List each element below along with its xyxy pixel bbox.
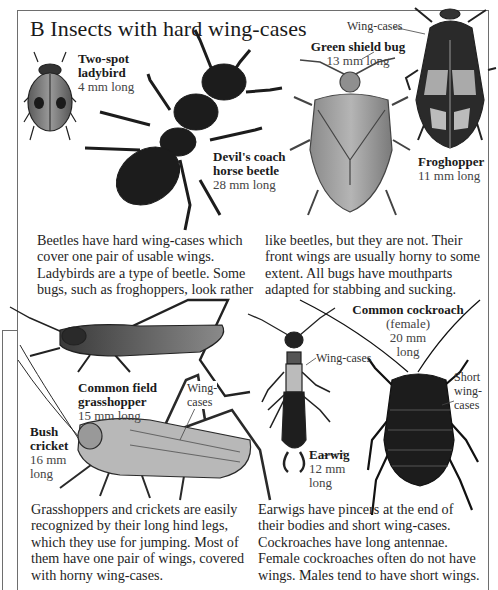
ladybird-illustration — [24, 52, 76, 140]
insect-name: Common cockroach — [348, 303, 468, 317]
section-title: B Insects with hard wing-cases — [30, 16, 307, 42]
label-common-field-grasshopper: Common field grasshopper 15 mm long — [78, 381, 157, 423]
insect-size: 20 mm — [348, 331, 468, 345]
insect-name: ladybird — [78, 66, 134, 80]
insect-name: Bush — [30, 425, 68, 439]
insect-size: 28 mm long — [213, 178, 286, 192]
text-line: recognized by their long hind legs, — [31, 517, 244, 533]
text-line: extent. All bugs have mouthparts — [265, 265, 480, 281]
insect-name: Froghopper — [418, 155, 484, 169]
text-line: cover one pair of usable wings. — [37, 248, 253, 264]
label-common-cockroach: Common cockroach (female) 20 mm long — [348, 303, 468, 359]
label-green-shield-bug: Green shield bug 13 mm long — [306, 40, 410, 68]
label-froghopper: Froghopper 11 mm long — [418, 155, 484, 183]
insect-sex: (female) — [348, 317, 468, 331]
text-line: wings. Males tend to have short wings. — [258, 567, 479, 583]
callout-line: cases — [454, 398, 482, 412]
label-bush-cricket: Bush cricket 16 mm long — [30, 425, 68, 481]
text-line: their bodies and short wing-cases. — [258, 517, 479, 533]
text-line: Grasshoppers and crickets are easily — [31, 501, 244, 517]
text-line: them have one pair of wings, covered — [31, 550, 244, 566]
insect-size: 12 mm — [309, 462, 349, 476]
insect-size: 11 mm long — [418, 169, 484, 183]
insect-name: Common field — [78, 381, 157, 395]
insect-size: 13 mm long — [306, 54, 410, 68]
text-line: bugs, such as froghoppers, look rather — [37, 281, 253, 297]
text-line: Female cockroaches often do not have — [258, 550, 479, 566]
insect-size: 4 mm long — [78, 80, 134, 94]
callout-froghopper-wing-cases: Wing-cases — [347, 19, 403, 33]
text-line: Beetles have hard wing-cases which — [37, 232, 253, 248]
insect-name: grasshopper — [78, 395, 157, 409]
callout-cockroach-short-wing-cases: Short wing- cases — [454, 370, 482, 412]
label-earwig: Earwig 12 mm long — [309, 448, 349, 490]
froghopper-illustration — [406, 8, 496, 148]
paragraph-earwigs-cockroaches: Earwigs have pincers at the end of their… — [258, 501, 479, 583]
paragraph-beetles-col2: like beetles, but they are not. Their fr… — [265, 232, 480, 298]
text-line: adapted for stabbing and sucking. — [265, 281, 480, 297]
paragraph-beetles-col1: Beetles have hard wing-cases which cover… — [37, 232, 253, 298]
text-line: Cockroaches have long antennae. — [258, 534, 479, 550]
text-line: like beetles, but they are not. Their — [265, 232, 480, 248]
label-two-spot-ladybird: Two-spot ladybird 4 mm long — [78, 52, 134, 94]
callout-line: wing- — [454, 384, 482, 398]
insect-size: long — [348, 345, 468, 359]
label-devils-coach-horse-beetle: Devil's coach horse beetle 28 mm long — [213, 150, 286, 192]
insect-name: cricket — [30, 439, 68, 453]
insect-size: 15 mm long — [78, 409, 157, 423]
callout-line: cases — [187, 395, 217, 409]
text-line: Earwigs have pincers at the end of — [258, 501, 479, 517]
insect-size: long — [309, 476, 349, 490]
text-line: Ladybirds are a type of beetle. Some — [37, 265, 253, 281]
text-line: with horny wing-cases. — [31, 567, 244, 583]
insect-name: Two-spot — [78, 52, 134, 66]
insect-size: 16 mm — [30, 453, 68, 467]
green-shield-bug-illustration — [290, 58, 410, 215]
insect-name: Green shield bug — [306, 40, 410, 54]
text-line: front wings are usually horny to some — [265, 248, 480, 264]
insect-name: Devil's coach — [213, 150, 286, 164]
callout-line: Short — [454, 370, 482, 384]
insect-size: long — [30, 467, 68, 481]
paragraph-grasshoppers: Grasshoppers and crickets are easily rec… — [31, 501, 244, 583]
text-line: which they use for jumping. Most of — [31, 534, 244, 550]
callout-grasshopper-wing-cases: Wing- cases — [187, 381, 217, 409]
insect-name: horse beetle — [213, 164, 286, 178]
insect-name: Earwig — [309, 448, 349, 462]
callout-line: Wing- — [187, 381, 217, 395]
